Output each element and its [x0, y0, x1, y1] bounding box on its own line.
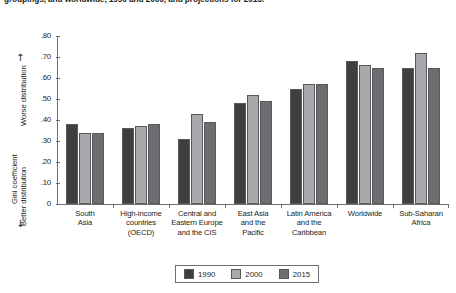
- x-axis-category-label-line: and the: [275, 218, 343, 227]
- y-axis-tick: [56, 78, 60, 79]
- bar-2000[interactable]: [359, 65, 371, 204]
- y-axis-tick-label: .60: [23, 73, 51, 82]
- bar-1990[interactable]: [346, 61, 358, 204]
- bar-2000[interactable]: [135, 126, 147, 204]
- legend-swatch: [279, 269, 289, 279]
- x-axis-tick: [281, 204, 282, 208]
- bar-1990[interactable]: [178, 139, 190, 204]
- bar-2015[interactable]: [92, 133, 104, 204]
- x-axis-tick: [169, 204, 170, 208]
- x-axis-line: [57, 204, 449, 205]
- bar-group: [122, 36, 160, 204]
- bar-1990[interactable]: [290, 89, 302, 205]
- y-axis-tick: [56, 36, 60, 37]
- bar-2015[interactable]: [148, 124, 160, 204]
- bar-group: [234, 36, 272, 204]
- plot-area: 0.10.20.30.40.50.60.70.80: [57, 36, 449, 205]
- bar-group: [402, 36, 440, 204]
- x-axis-category-label: Sub-SaharanAfrica: [387, 209, 455, 228]
- chart-legend: 199020002015: [175, 265, 319, 283]
- x-axis-tick: [113, 204, 114, 208]
- bar-group: [178, 36, 216, 204]
- y-axis-tick: [56, 120, 60, 121]
- y-axis-title: Gini coefficient: [10, 154, 19, 204]
- legend-item[interactable]: 1990: [184, 269, 215, 279]
- figure-caption: groupings, and worldwide, 1990 and 2000,…: [4, 0, 452, 5]
- y-axis-tick-label: .50: [23, 94, 51, 103]
- legend-swatch: [231, 269, 241, 279]
- y-axis-tick-label: 0: [23, 199, 51, 208]
- y-axis-tick: [56, 99, 60, 100]
- bar-2015[interactable]: [316, 84, 328, 204]
- bar-2000[interactable]: [191, 114, 203, 204]
- bar-2000[interactable]: [79, 133, 91, 204]
- legend-item[interactable]: 2000: [231, 269, 262, 279]
- y-axis-note-better: Better distribution: [19, 167, 28, 226]
- gini-coefficient-chart-figure: groupings, and worldwide, 1990 and 2000,…: [0, 0, 456, 293]
- bar-2015[interactable]: [204, 122, 216, 204]
- y-axis-tick-label: .20: [23, 157, 51, 166]
- bar-2000[interactable]: [303, 84, 315, 204]
- y-axis-tick-label: .70: [23, 52, 51, 61]
- bar-2015[interactable]: [372, 68, 384, 205]
- legend-item[interactable]: 2015: [279, 269, 310, 279]
- legend-label: 2015: [293, 270, 310, 279]
- x-axis-category-label-line: Sub-Saharan: [387, 209, 455, 218]
- legend-label: 2000: [245, 270, 262, 279]
- bar-group: [66, 36, 104, 204]
- y-axis-tick: [56, 204, 60, 205]
- y-axis-tick-label: .80: [23, 31, 51, 40]
- bar-2000[interactable]: [247, 95, 259, 204]
- bar-1990[interactable]: [66, 124, 78, 204]
- legend-swatch: [184, 269, 194, 279]
- bar-1990[interactable]: [234, 103, 246, 204]
- bar-1990[interactable]: [122, 128, 134, 204]
- legend-label: 1990: [198, 270, 215, 279]
- bar-group: [346, 36, 384, 204]
- x-axis-tick: [448, 204, 449, 208]
- x-axis-category-label-line: Caribbean: [275, 228, 343, 237]
- y-axis-tick-label: .30: [23, 136, 51, 145]
- y-axis-tick-label: .10: [23, 178, 51, 187]
- bar-group: [290, 36, 328, 204]
- y-axis-tick: [56, 183, 60, 184]
- y-axis-tick-label: .40: [23, 115, 51, 124]
- bar-2015[interactable]: [260, 101, 272, 204]
- x-axis-tick: [337, 204, 338, 208]
- x-axis-tick: [225, 204, 226, 208]
- y-axis-tick: [56, 57, 60, 58]
- bar-2015[interactable]: [428, 68, 440, 205]
- bar-1990[interactable]: [402, 68, 414, 205]
- x-axis-category-label-line: Africa: [387, 218, 455, 227]
- bar-2000[interactable]: [415, 53, 427, 204]
- y-axis-tick: [56, 141, 60, 142]
- y-axis-tick: [56, 162, 60, 163]
- x-axis-tick: [393, 204, 394, 208]
